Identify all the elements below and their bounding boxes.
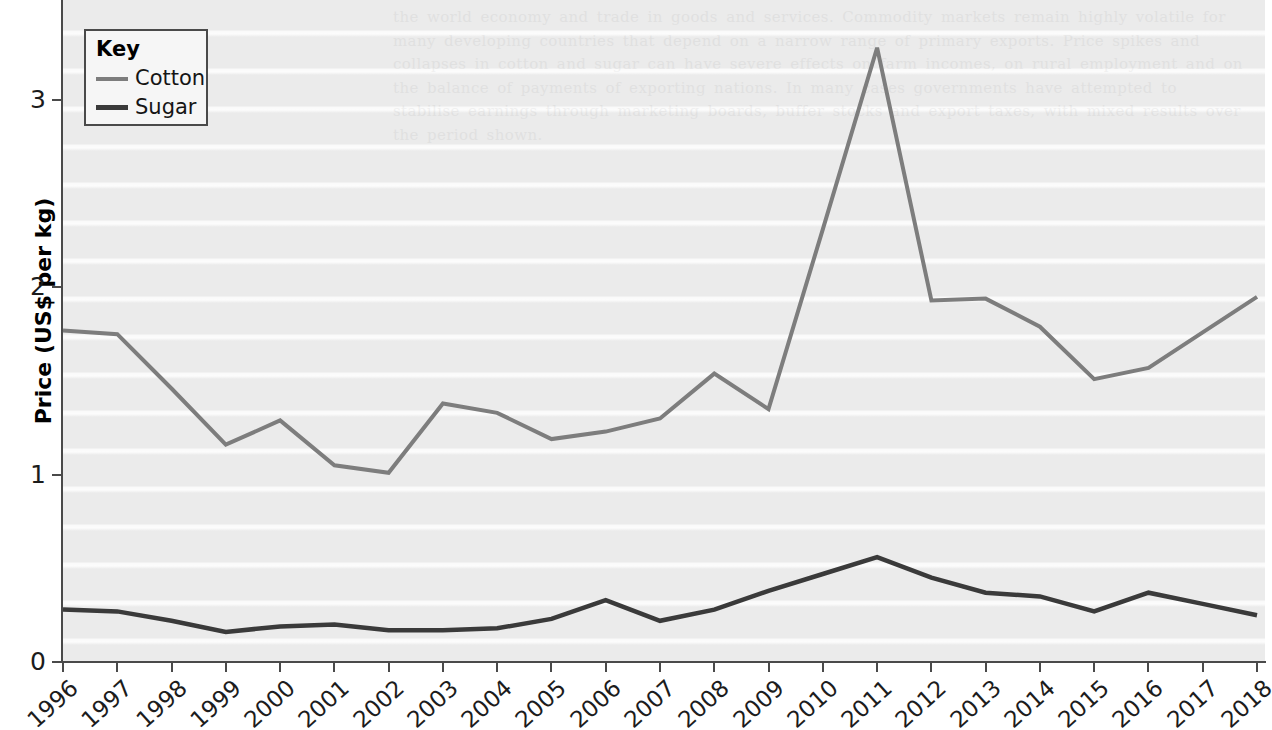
x-tick-1997 xyxy=(116,661,118,672)
y-tick-1 xyxy=(52,474,62,476)
legend-box: Key Cotton Sugar xyxy=(84,29,208,126)
x-tick-2017 xyxy=(1202,661,1204,672)
x-tick-2009 xyxy=(768,661,770,672)
x-tick-1996 xyxy=(62,661,64,672)
legend-swatch-cotton xyxy=(96,77,128,81)
x-tick-2004 xyxy=(496,661,498,672)
x-tick-2001 xyxy=(333,661,335,672)
legend-label-cotton: Cotton xyxy=(135,68,205,89)
legend-entry-cotton: Cotton xyxy=(96,64,206,93)
legend-swatch-sugar xyxy=(96,105,128,110)
x-tick-2011 xyxy=(876,661,878,672)
x-tick-2012 xyxy=(930,661,932,672)
legend-entry-sugar: Sugar xyxy=(96,93,206,122)
x-tick-2010 xyxy=(822,661,824,672)
legend-title: Key xyxy=(96,37,206,61)
x-tick-2014 xyxy=(1039,661,1041,672)
x-tick-2000 xyxy=(279,661,281,672)
x-tick-2013 xyxy=(985,661,987,672)
plot-area: the world economy and trade in goods and… xyxy=(63,0,1265,662)
x-axis-line xyxy=(61,661,1266,663)
y-tick-label-1: 1 xyxy=(6,462,46,487)
y-tick-0 xyxy=(52,661,62,663)
y-axis-title: Price (US$ per kg) xyxy=(33,171,55,451)
y-tick-label-0: 0 xyxy=(6,649,46,674)
legend-label-sugar: Sugar xyxy=(135,97,196,118)
y-tick-label-3: 3 xyxy=(6,87,46,112)
x-tick-2018 xyxy=(1256,661,1258,672)
x-tick-label-2018: 2018 xyxy=(1209,676,1272,730)
x-tick-2015 xyxy=(1093,661,1095,672)
chart-figure: the world economy and trade in goods and… xyxy=(0,0,1272,730)
y-tick-2 xyxy=(52,286,62,288)
scan-banding-texture xyxy=(63,0,1265,662)
y-tick-3 xyxy=(52,99,62,101)
y-tick-label-2: 2 xyxy=(6,274,46,299)
x-tick-2003 xyxy=(442,661,444,672)
page-bleedthrough-text: the world economy and trade in goods and… xyxy=(63,0,1265,662)
x-tick-2005 xyxy=(550,661,552,672)
x-tick-1999 xyxy=(225,661,227,672)
x-tick-2007 xyxy=(659,661,661,672)
x-tick-2002 xyxy=(388,661,390,672)
x-tick-2006 xyxy=(605,661,607,672)
x-tick-1998 xyxy=(171,661,173,672)
x-tick-2008 xyxy=(713,661,715,672)
x-tick-2016 xyxy=(1147,661,1149,672)
